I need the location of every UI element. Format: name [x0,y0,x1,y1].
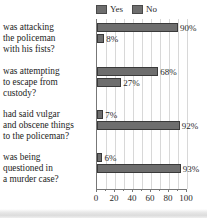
chart-legend: Yes No [96,3,157,15]
bar-no-0 [97,34,104,43]
bar-no-2 [97,121,180,130]
bar-no-1 [97,78,121,87]
x-axis-tick-label: 20 [110,193,119,203]
bar-value-label: 7% [103,110,117,119]
x-axis-tick-minor [105,189,106,191]
legend-item-no: No [132,5,157,14]
bar-value-label: 27% [121,78,140,87]
legend-label-no: No [146,5,157,14]
category-label-line: to the policeman? [3,131,93,142]
bar-row: 68% [97,67,187,76]
x-axis-tick-label: 60 [146,193,155,203]
bar-row: 7% [97,110,187,119]
bar-value-label: 90% [178,23,197,32]
plot-area: 90%8%68%27%7%92%6%93% [96,19,187,189]
category-label-line: to escape from [3,77,93,88]
category-label-line: questioned in [3,163,93,174]
bar-chart: Yes No was attackingthe policemanwith hi… [0,0,207,218]
category-label-line: had said vulgar [3,109,93,120]
x-axis-tick-major [132,189,133,192]
legend-label-yes: Yes [110,5,123,14]
category-label-line: was attacking [3,22,93,33]
category-label-line: custody? [3,88,93,99]
bar-row: 8% [97,34,187,43]
x-axis-tick-minor [177,189,178,191]
bar-row: 92% [97,121,187,130]
x-axis [96,189,186,190]
category-label-2: had said vulgarand obscene thingsto the … [3,109,93,143]
x-axis-tick-minor [123,189,124,191]
category-label-3: was beingquestioned ina murder case? [3,152,93,186]
x-axis-tick-label: 80 [164,193,173,203]
x-axis-tick-labels: 020406080100 [96,193,186,205]
x-axis-tick-major [96,189,97,192]
bar-row: 27% [97,78,187,87]
bar-value-label: 6% [102,153,116,162]
legend-swatch-no [132,5,143,14]
category-label-line: a murder case? [3,174,93,185]
category-label-0: was attackingthe policemanwith his fists… [3,22,93,56]
x-axis-tick-label: 0 [94,193,99,203]
scan-artifact-band [0,209,207,218]
category-label-line: was attempting [3,66,93,77]
bar-yes-1 [97,67,158,76]
category-label-line: with his fists? [3,44,93,55]
x-axis-tick-major [168,189,169,192]
bar-row: 93% [97,164,187,173]
category-label-line: and obscene things [3,120,93,131]
bar-yes-0 [97,23,178,32]
x-axis-tick-minor [141,189,142,191]
x-axis-tick-major [186,189,187,192]
bar-value-label: 92% [180,121,199,130]
legend-swatch-yes [96,5,107,14]
bar-value-label: 68% [158,67,177,76]
bar-value-label: 93% [181,164,200,173]
x-axis-tick-label: 100 [179,193,193,203]
bar-row: 6% [97,153,187,162]
x-axis-tick-major [114,189,115,192]
category-label-line: was being [3,152,93,163]
category-label-line: the policeman [3,33,93,44]
bar-no-3 [97,164,181,173]
legend-item-yes: Yes [96,5,123,14]
x-axis-tick-major [150,189,151,192]
x-axis-tick-label: 40 [128,193,137,203]
bar-row: 90% [97,23,187,32]
x-axis-tick-minor [159,189,160,191]
bar-value-label: 8% [104,34,118,43]
category-label-1: was attemptingto escape fromcustody? [3,66,93,100]
